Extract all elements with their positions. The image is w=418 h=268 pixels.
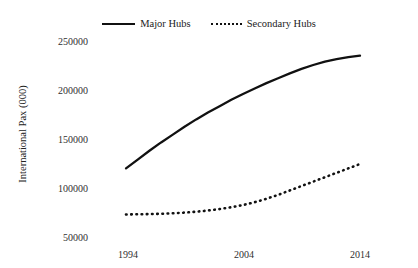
plot-area [0,0,418,268]
series-canvas [0,0,418,268]
chart-figure: Major Hubs Secondary Hubs International … [0,0,418,268]
series-line-major-hubs [126,56,360,169]
series-line-secondary-hubs [126,164,360,214]
